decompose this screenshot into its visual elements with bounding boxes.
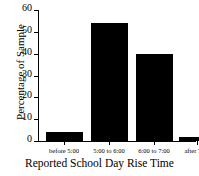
bar-chart: Percentage of Sample 0 10 20 30 40 50 60 [0,0,199,176]
x-axis-category-label: 5:00 to 6:00 [93,147,124,155]
y-axis-tick-label: 10 [22,112,32,122]
y-axis-tick: 50 [34,32,38,33]
y-axis-tick-label: 50 [22,25,32,35]
bar-after-700 [179,137,199,141]
y-axis-tick: 10 [34,119,38,120]
x-axis-category-label: 6:00 to 7:00 [138,147,169,155]
y-axis-line [38,10,39,142]
x-axis-tick [154,141,155,145]
y-axis-tick-label: 0 [27,134,32,144]
x-axis-tick [197,141,198,145]
y-axis-tick-label: 30 [22,69,32,79]
y-axis-tick-label: 60 [22,3,32,13]
x-axis-line [38,141,196,142]
y-axis-tick-label: 20 [22,90,32,100]
y-axis-tick: 20 [34,97,38,98]
x-axis-tick [64,141,65,145]
y-axis-tick-label: 40 [22,47,32,57]
x-axis-category-label: after 7:00 [184,147,199,155]
bar-600-to-700 [136,54,173,141]
bar-500-to-600 [91,23,128,141]
y-axis-tick: 0 [34,141,38,142]
y-axis-tick: 40 [34,54,38,55]
x-axis-tick [109,141,110,145]
y-axis-tick: 30 [34,76,38,77]
bar-before-500 [46,132,83,141]
x-axis-title: Reported School Day Rise Time [0,157,199,169]
x-axis-category-label: before 5:00 [49,147,79,155]
plot-area: 0 10 20 30 40 50 60 before 5:00 5 [38,10,196,142]
y-axis-tick: 60 [34,10,38,11]
